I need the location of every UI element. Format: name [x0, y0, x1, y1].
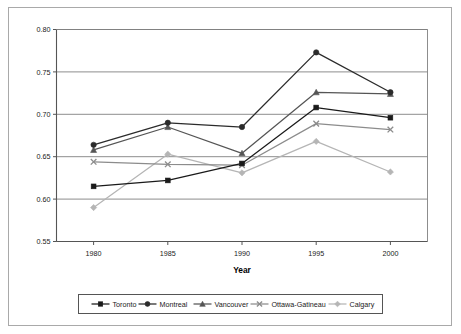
x-axis: 19801985199019952000	[86, 242, 399, 258]
x-tick-label: 1995	[308, 249, 324, 258]
y-tick-label: 0.55	[37, 237, 51, 246]
y-tick-label: 0.80	[37, 25, 51, 34]
chart-legend: TorontoMontrealVancouverOttawa-GatineauC…	[79, 295, 383, 314]
line-chart: 0.550.600.650.700.750.801980198519901995…	[0, 0, 461, 334]
marker-circle	[145, 302, 150, 307]
legend-label: Calgary	[350, 300, 375, 309]
legend-label: Montreal	[160, 300, 188, 309]
x-tick-label: 1980	[86, 249, 102, 258]
marker-circle	[165, 120, 170, 125]
chart-figure: 0.550.600.650.700.750.801980198519901995…	[0, 0, 461, 334]
marker-square	[165, 178, 170, 183]
legend-label: Vancouver	[215, 300, 249, 309]
legend-label: Ottawa-Gatineau	[272, 300, 326, 309]
marker-circle	[239, 124, 244, 129]
x-tick-label: 2000	[382, 249, 398, 258]
x-axis-title: Year	[233, 265, 251, 275]
marker-square	[91, 184, 96, 189]
y-tick-label: 0.70	[37, 110, 51, 119]
x-tick-label: 1990	[234, 249, 250, 258]
y-tick-label: 0.75	[37, 68, 51, 77]
y-tick-label: 0.65	[37, 152, 51, 161]
marker-square	[388, 115, 393, 120]
x-tick-label: 1985	[160, 249, 176, 258]
y-tick-label: 0.60	[37, 195, 51, 204]
plot-area	[57, 30, 428, 242]
marker-square	[98, 302, 102, 306]
marker-circle	[388, 90, 393, 95]
marker-circle	[91, 142, 96, 147]
marker-square	[314, 105, 319, 110]
legend-label: Toronto	[113, 300, 137, 309]
marker-square	[240, 161, 245, 166]
marker-circle	[314, 50, 319, 55]
